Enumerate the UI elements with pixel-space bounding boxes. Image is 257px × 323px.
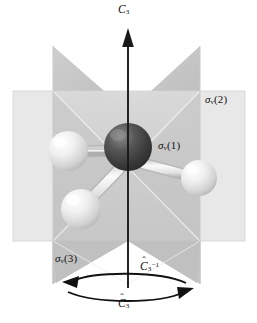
atom-hydrogen-lower-left (61, 189, 101, 229)
c3-axis-subscript: 3 (126, 8, 130, 16)
sv1-index: (1) (167, 139, 180, 151)
sv3-index: (3) (64, 252, 77, 264)
symmetry-diagram-canvas (0, 0, 257, 323)
mirror-plane-sv2-label: σv(2) (205, 94, 227, 106)
sv2-index: (2) (214, 93, 227, 105)
mirror-plane-sv1-label: σv(1) (158, 140, 180, 152)
atom-hydrogen-left (48, 131, 88, 171)
c3-inverse-hat: ˆ (142, 256, 146, 267)
symmetry-diagram-figure: C3 σv(1) σv(2) σv(3) ˆC3−1 ˆC3 (0, 0, 257, 323)
c3-forward-hat: ˆ (120, 293, 124, 304)
mirror-plane-sv3-label: σv(3) (55, 253, 77, 265)
c3-forward-subscript: 3 (126, 302, 130, 310)
c3-forward-arrow (68, 287, 194, 301)
c3-inverse-superscript: −1 (151, 261, 159, 269)
c3-axis-label: C3 (118, 4, 129, 16)
c3-inverse-label: ˆC3−1 (140, 261, 159, 273)
atom-hydrogen-right (181, 160, 217, 196)
c3-forward-label: ˆC3 (118, 298, 129, 310)
